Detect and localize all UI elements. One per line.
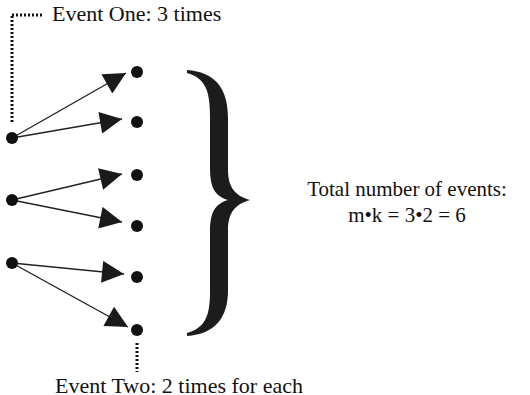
total-formula: m•k = 3•2 = 6: [282, 202, 530, 228]
arrow-2b: [12, 200, 122, 222]
first-stage-nodes: [6, 132, 18, 269]
node-event-one-3: [6, 257, 18, 269]
total-events-block: Total number of events: m•k = 3•2 = 6: [282, 176, 530, 228]
event-one-label: Event One: 3 times: [52, 1, 221, 27]
event-one-leader: [12, 15, 42, 122]
outcome-nodes: [131, 66, 143, 336]
node-event-one-2: [6, 194, 18, 206]
arrow-2a: [12, 174, 122, 200]
branch-arrows: [12, 73, 128, 327]
event-two-label: Event Two: 2 times for each: [55, 373, 303, 395]
node-event-one-1: [6, 132, 18, 144]
total-title: Total number of events:: [282, 176, 530, 202]
right-brace-icon: [187, 70, 250, 336]
